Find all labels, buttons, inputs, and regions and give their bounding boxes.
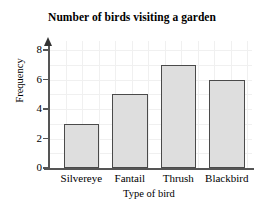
x-axis-tick-label: Blackbird: [197, 171, 257, 185]
bar: [161, 65, 197, 168]
gridline-horizontal: [49, 65, 252, 66]
y-axis-tick-label: 2: [22, 133, 42, 144]
bar: [209, 80, 245, 169]
plot-area: [49, 41, 252, 168]
gridline-vertical: [247, 41, 248, 168]
x-axis-line: [44, 168, 254, 170]
y-axis-tick-label: 6: [22, 74, 42, 85]
y-axis-tick-label: 4: [22, 103, 42, 114]
y-axis-tick-label: 0: [22, 162, 42, 173]
x-axis-tick-labels: SilvereyeFantailThrushBlackbird: [44, 171, 258, 187]
y-axis-tick: [43, 49, 49, 50]
bar: [112, 94, 148, 168]
y-axis-tick: [43, 108, 49, 109]
bar-chart: Number of birds visiting a garden Freque…: [0, 0, 264, 206]
y-axis-line: [48, 45, 50, 169]
bar: [64, 124, 100, 168]
y-axis-tick-labels: 02468: [20, 0, 42, 206]
y-axis-tick: [43, 79, 49, 80]
x-axis-label: Type of bird: [44, 188, 254, 199]
y-axis-tick: [43, 138, 49, 139]
y-axis-arrow-icon: [44, 37, 52, 46]
y-axis-tick: [43, 167, 49, 168]
y-axis-tick-label: 8: [22, 44, 42, 55]
gridline-vertical: [198, 41, 199, 168]
gridline-horizontal: [49, 50, 252, 51]
gridline-vertical: [148, 41, 149, 168]
